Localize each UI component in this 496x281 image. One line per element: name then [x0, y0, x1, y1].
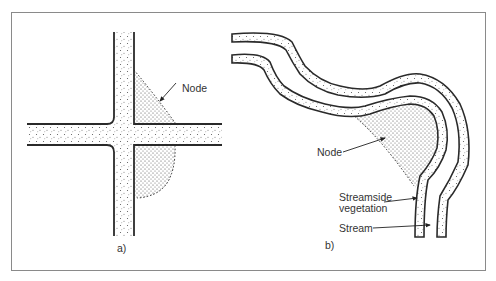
panel-b: Node Streamside vegetation Stream b) [232, 33, 469, 251]
road-fill [27, 32, 222, 236]
node-arrow-b [343, 138, 385, 152]
node-lower [134, 145, 175, 198]
panel-a: Node a) [27, 32, 222, 254]
stream-label: Stream [339, 222, 373, 234]
node-label-b: Node [317, 146, 342, 158]
streamside-label-line2: vegetation [339, 202, 388, 214]
caption-b: b) [325, 239, 334, 251]
caption-a: a) [117, 242, 126, 254]
node-label-a: Node [182, 82, 207, 94]
node-upper [134, 70, 176, 124]
node-arrow-a [160, 83, 176, 101]
diagram-canvas: Node a) Node Streamside vegetation Strea… [0, 0, 496, 281]
